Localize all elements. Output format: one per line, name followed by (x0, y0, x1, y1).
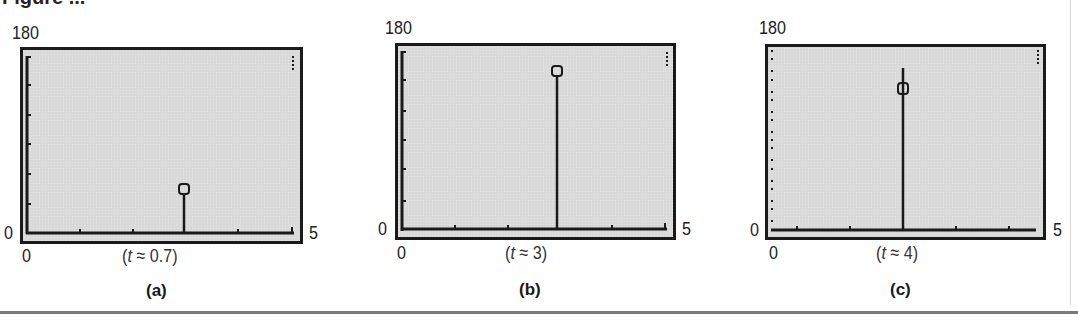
panel-label: (b) (519, 280, 541, 300)
panel-label: (a) (146, 281, 167, 301)
x-min-label: 0 (22, 245, 31, 267)
x-max-label: 5 (682, 218, 691, 240)
ball-marker (179, 184, 189, 194)
x-max-label: 5 (309, 222, 318, 244)
x-min-label: 0 (397, 242, 406, 264)
panel-label: (c) (890, 280, 911, 300)
time-annotation: (t ≈ 4) (876, 242, 918, 264)
time-annotation: (t ≈ 3) (505, 242, 547, 264)
panel-a: 180 0 5 0 (t ≈ 0.7) (a) (0, 0, 360, 300)
y-min-label: 0 (750, 219, 759, 241)
x-min-label: 0 (769, 242, 778, 264)
page-edge (1070, 0, 1071, 305)
panel-b: 180 0 5 0 (t ≈ 3) (b) (360, 0, 720, 300)
panel-c: 180 0 5 0 (t ≈ 4) (c) (720, 0, 1078, 300)
status-dots-icon (666, 52, 668, 66)
plot-area (0, 0, 360, 300)
y-min-label: 0 (4, 222, 13, 244)
ball-marker (552, 66, 562, 76)
time-annotation: (t ≈ 0.7) (122, 245, 178, 267)
status-dots-icon (292, 56, 294, 70)
bottom-rule (0, 311, 1078, 314)
dotted-y-axis (771, 50, 773, 222)
y-min-label: 0 (378, 218, 387, 240)
status-dots-icon (1037, 50, 1039, 64)
x-max-label: 5 (1053, 219, 1062, 241)
